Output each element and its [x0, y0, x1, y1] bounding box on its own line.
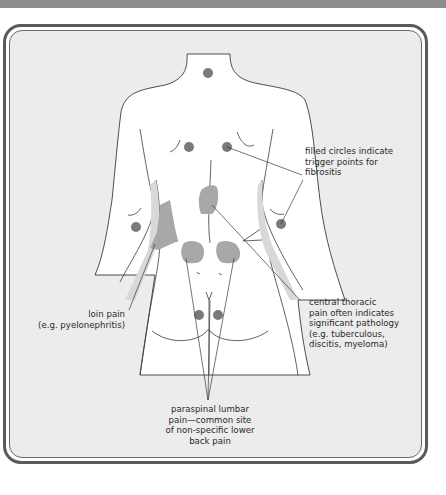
legend-trigger-points: filled circles indicate trigger points f… [305, 146, 393, 178]
pain-area-left-paraspinal-lumbar [181, 241, 204, 263]
annotation-loin-pain: loin pain (e.g. pyelonephritis) [30, 309, 125, 330]
trigger-point-right-buttock [213, 310, 223, 320]
annotation-paraspinal-lumbar: paraspinal lumbar pain—common site of no… [150, 404, 270, 446]
annotation-central-thoracic: central thoracic pain often indicates si… [309, 297, 399, 350]
torso-outline [95, 54, 345, 375]
trigger-point-neck [203, 68, 213, 78]
trigger-point-left-elbow [131, 222, 141, 232]
trigger-point-left-scapula [184, 142, 194, 152]
pain-area-central-thoracic [199, 185, 218, 214]
